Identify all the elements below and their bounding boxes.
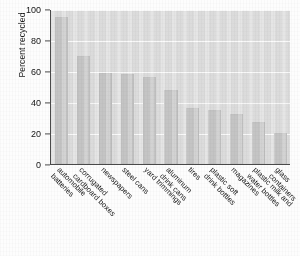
y-axis-tick-label: 100 [0, 5, 50, 15]
x-axis-label-line: tires [186, 165, 203, 182]
y-axis-tick-label: 0 [0, 160, 50, 170]
bar [55, 17, 68, 164]
bar [121, 74, 134, 164]
y-axis-tick-label: 60 [0, 67, 50, 77]
y-axis-tick-label: 20 [0, 129, 50, 139]
gridline [51, 41, 290, 42]
bar [208, 110, 221, 164]
bar [186, 108, 199, 164]
x-axis-label-group: automobilebatteriescorrugatedcardboard b… [50, 166, 290, 256]
x-axis-tick-label: tires [186, 166, 202, 182]
y-axis-tick-label: 80 [0, 36, 50, 46]
bar [99, 73, 112, 164]
plot-area [50, 10, 290, 165]
bar [77, 56, 90, 165]
bar [143, 77, 156, 164]
bar [274, 133, 287, 164]
bar [252, 122, 265, 164]
gridline [51, 10, 290, 11]
y-axis-tick-label: 40 [0, 98, 50, 108]
bar [230, 114, 243, 164]
recycling-bar-chart-figure: Percent recycled 020406080100 automobile… [0, 0, 300, 256]
bar [164, 90, 177, 164]
